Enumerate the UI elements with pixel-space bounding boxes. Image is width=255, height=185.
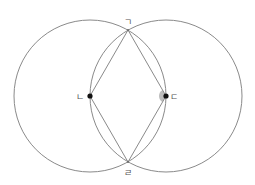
point-top: [127, 29, 129, 31]
rhombus-segments: [90, 30, 166, 162]
label-top: ㄱ: [124, 17, 132, 27]
circles-group: [14, 20, 242, 172]
segment-top-left: [90, 30, 128, 96]
point-left: [87, 93, 92, 98]
vesica-diagram: ㄱ ㄴ ㄷ ㄹ: [0, 0, 255, 185]
label-left: ㄴ: [76, 92, 84, 102]
label-right: ㄷ: [170, 92, 178, 102]
segment-right-top: [128, 30, 166, 96]
segment-left-bottom: [90, 96, 128, 162]
points-group: [87, 29, 168, 163]
point-right: [163, 93, 168, 98]
segment-bottom-right: [128, 96, 166, 162]
label-bottom: ㄹ: [124, 168, 132, 178]
point-bottom: [127, 161, 129, 163]
